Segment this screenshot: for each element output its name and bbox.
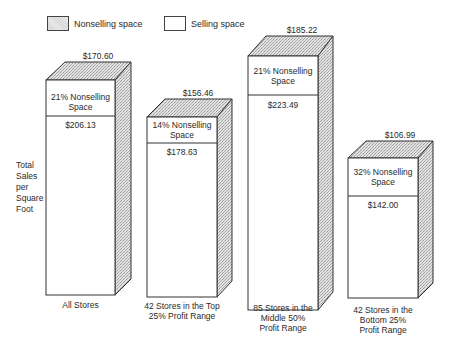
nonselling-pct-label: 32% Nonselling: [348, 167, 418, 177]
category-label: 85 Stores in the: [238, 303, 328, 313]
legend-label-selling: Selling space: [191, 19, 245, 29]
bar-bottom-25: [348, 141, 433, 298]
nonselling-pct-label: 14% Nonselling: [147, 120, 217, 130]
category-label: 42 Stores in the Top: [132, 301, 232, 311]
category-label: Bottom 25%: [338, 315, 428, 325]
nonselling-space-label: Space: [348, 177, 418, 187]
selling-value-label: $142.00: [348, 200, 418, 210]
nonselling-space-label: Space: [248, 76, 318, 86]
category-label: 25% Profit Range: [132, 311, 232, 321]
legend-label-nonselling: Nonselling space: [74, 19, 143, 29]
total-value-label: $106.99: [370, 130, 430, 140]
nonselling-pct-label: 21% Nonselling: [46, 92, 115, 102]
selling-value-label: $206.13: [46, 120, 115, 130]
category-label: 42 Stores in the: [338, 305, 428, 315]
legend-swatch-selling: [164, 16, 186, 31]
nonselling-space-label: Space: [46, 102, 115, 112]
category-label: All Stores: [36, 300, 125, 310]
category-label: Profit Range: [338, 325, 428, 335]
nonselling-pct-label: 21% Nonselling: [248, 66, 318, 76]
nonselling-space-label: Space: [147, 130, 217, 140]
category-label: Middle 50%: [238, 313, 328, 323]
total-value-label: $170.60: [68, 51, 128, 61]
selling-value-label: $223.49: [248, 100, 318, 110]
y-axis-label: Total Sales per Square Foot: [16, 160, 43, 215]
selling-value-label: $178.63: [147, 147, 217, 157]
total-value-label: $156.46: [168, 88, 228, 98]
total-value-label: $185.22: [272, 25, 332, 35]
category-label: Profit Range: [238, 323, 328, 333]
legend-swatch-nonselling: [47, 16, 69, 31]
